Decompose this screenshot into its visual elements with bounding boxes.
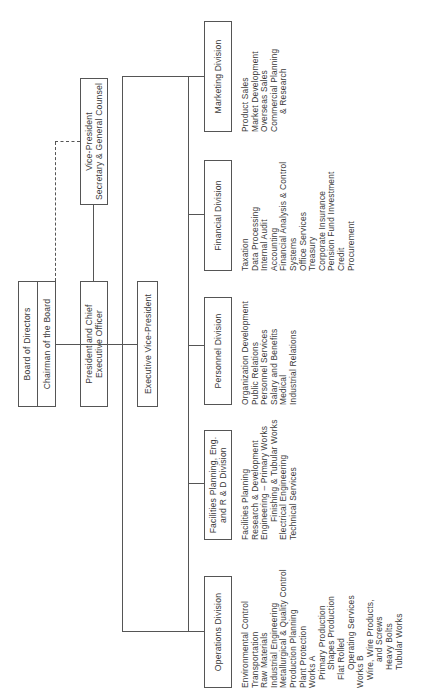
vp-label-2: Secretary & General Counsel — [94, 83, 104, 200]
chairman-label: Chairman of the Board — [38, 282, 56, 406]
board-of-directors-label: Board of Directors — [18, 282, 38, 406]
financial-division-label: Financial Division — [213, 180, 223, 250]
list-item: & Research — [279, 49, 289, 132]
facilities-division-box: Facilities Planning, Eng. and R & D Divi… — [204, 430, 232, 540]
stub-financial — [188, 214, 204, 215]
operations-division-label: Operations Division — [213, 593, 223, 671]
facilities-division-label-1: Facilities Planning, Eng. — [208, 437, 218, 534]
division-bus-line — [188, 77, 189, 632]
marketing-division-label: Marketing Division — [213, 40, 223, 114]
trunk-line — [122, 77, 123, 632]
bottom-branch-line — [122, 631, 204, 632]
list-item: Industrial Relations — [289, 301, 299, 405]
org-chart: Board of Directors Chairman of the Board… — [0, 0, 423, 694]
connector-board-to-exec-line — [55, 344, 137, 345]
board-box: Board of Directors Chairman of the Board — [18, 281, 56, 407]
marketing-items: Product Sales Market Development Oversea… — [241, 49, 289, 132]
vp-label-1: Vice-President — [84, 112, 94, 171]
personnel-items: Organization Development Public Relation… — [241, 301, 299, 405]
financial-division-box: Financial Division — [204, 160, 232, 271]
stub-personnel — [188, 345, 204, 346]
stub-facilities — [188, 483, 204, 484]
dashed-board-vp-vertical — [55, 142, 56, 281]
list-item: Technical Services — [289, 419, 299, 540]
personnel-division-label: Personnel Division — [213, 314, 223, 389]
facilities-division-label-2: and R & D Division — [218, 447, 228, 523]
exec-vp-label: Executive Vice-President — [143, 294, 153, 394]
operations-division-box: Operations Division — [204, 576, 232, 688]
facilities-items: Facilities Planning Research & Developme… — [241, 419, 299, 540]
financial-items: Taxation Data Processing Internal Audit … — [241, 162, 356, 271]
marketing-division-box: Marketing Division — [204, 21, 232, 132]
list-item: Procurement — [347, 162, 357, 271]
dashed-board-vp-horizontal — [55, 141, 80, 142]
top-branch-line — [122, 76, 204, 77]
connector-president-vp — [93, 205, 94, 281]
personnel-division-box: Personnel Division — [204, 297, 232, 405]
list-item: Tubular Works — [395, 569, 405, 688]
exec-vp-box: Executive Vice-President — [137, 281, 158, 407]
vp-secretary-box: Vice-President Secretary & General Couns… — [80, 78, 108, 205]
operations-items: Environmental Control Transportation Raw… — [241, 569, 404, 688]
